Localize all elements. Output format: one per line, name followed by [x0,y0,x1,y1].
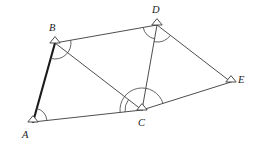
angle-arc-d [154,35,170,42]
segment-ac [33,110,142,122]
segment-ab [33,43,55,122]
vertex-marker-a [28,116,38,122]
angle-arc-c [125,100,129,112]
vertex-markers-layer [28,19,236,122]
vertex-label-a: A [21,129,29,140]
vertex-label-d: D [151,4,160,15]
segment-bd [55,25,157,43]
figure-canvas: ABCDE [0,0,260,145]
geometry-figure: ABCDE [0,0,260,145]
segment-ce [142,82,231,110]
segment-bc [55,43,142,110]
segment-dc [142,25,157,110]
segment-de [157,25,231,82]
vertex-label-c: C [138,117,146,128]
segments-layer [33,25,231,122]
vertex-label-b: B [49,22,56,33]
angle-arc-d [143,27,154,38]
vertex-marker-b [50,37,60,43]
angle-arc-a [37,109,47,121]
vertex-label-e: E [237,74,245,85]
vertex-marker-d [152,19,162,25]
